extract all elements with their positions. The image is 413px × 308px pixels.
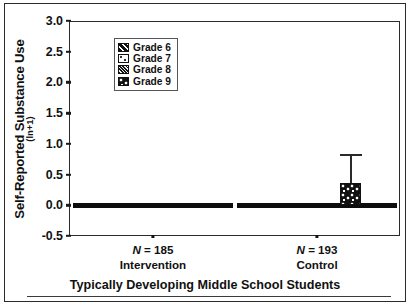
y-tick-mark	[66, 112, 71, 114]
legend-item: Grade 8	[118, 64, 171, 75]
y-axis-title: Self-Reported Substance Use (ln+1)	[7, 20, 41, 238]
x-group-n: N = 185	[120, 243, 186, 256]
x-group-name: Intervention	[120, 258, 186, 271]
y-tick-mark	[66, 51, 71, 53]
y-tick-mark	[66, 143, 71, 145]
legend-swatch-icon	[118, 65, 129, 74]
legend-swatch-icon	[118, 54, 129, 63]
error-bar-cap	[340, 154, 362, 156]
figure-panel: Self-Reported Substance Use (ln+1) 3.02.…	[4, 3, 406, 302]
legend-swatch-icon	[118, 77, 129, 86]
y-tick-label: 1.0	[46, 137, 63, 151]
x-tick-mark	[315, 235, 318, 238]
y-tick-mark	[66, 235, 71, 237]
y-tick-label: 2.0	[46, 75, 63, 89]
y-tick-label: 2.5	[46, 45, 63, 59]
chart-legend: Grade 6Grade 7Grade 8Grade 9	[114, 38, 178, 91]
legend-item: Grade 6	[118, 42, 171, 53]
legend-item-label: Grade 9	[133, 76, 171, 87]
y-tick-mark	[66, 81, 71, 83]
legend-item-label: Grade 7	[133, 53, 171, 64]
caption-rule	[27, 296, 391, 297]
x-group-n: N = 193	[296, 243, 337, 256]
x-group-label: N = 185Intervention	[120, 243, 186, 271]
y-axis-title-sub: (ln+1)	[25, 116, 35, 141]
legend-item-label: Grade 6	[133, 42, 171, 53]
legend-item-label: Grade 8	[133, 64, 171, 75]
y-tick-mark	[66, 20, 71, 22]
legend-item: Grade 9	[118, 76, 171, 87]
error-bar-line	[350, 154, 352, 182]
y-tick-label: 3.0	[46, 14, 63, 28]
plot-area: 3.02.52.01.51.00.50.0-0.5 Grade 6Grade 7…	[69, 21, 400, 236]
zero-baseline	[237, 203, 398, 208]
x-tick-mark	[151, 235, 154, 238]
bar	[340, 183, 361, 206]
x-group-name: Control	[296, 258, 337, 271]
y-tick-label: 0.0	[46, 198, 63, 212]
legend-swatch-icon	[118, 43, 129, 52]
y-tick-label: 0.5	[46, 168, 63, 182]
y-tick-label: 1.5	[46, 106, 63, 120]
y-tick-mark	[66, 173, 71, 175]
legend-item: Grade 7	[118, 53, 171, 64]
y-tick-label: -0.5	[42, 229, 63, 243]
figure-caption: Typically Developing Middle School Stude…	[5, 278, 405, 292]
x-group-label: N = 193Control	[296, 243, 337, 271]
y-tick-mark	[66, 204, 71, 206]
zero-baseline	[73, 203, 234, 208]
